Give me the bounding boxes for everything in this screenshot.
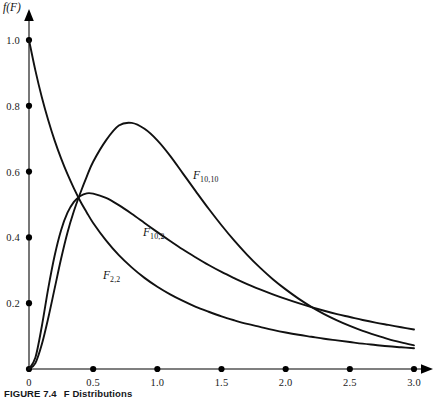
y-axis-title: f(F) (3, 1, 21, 13)
y-axis-tick-dot (26, 169, 32, 175)
y-axis-tick-label: 0.8 (0, 100, 20, 111)
x-axis-tick-dot (411, 366, 417, 372)
y-axis-tick-dot (26, 103, 32, 109)
x-axis-tick-dot (154, 366, 160, 372)
x-axis-tick-label: 2.5 (343, 377, 357, 388)
distribution-curves-group (29, 40, 414, 369)
density-curve-f-10-10 (29, 123, 414, 369)
f-10-10-label: F10,10 (193, 169, 219, 184)
figure-caption: FIGURE 7.4F Distributions (4, 388, 132, 399)
y-axis-tick-label: 0.4 (0, 232, 20, 243)
y-axis-tick-dot (26, 300, 32, 306)
y-axis-arrow-icon (24, 9, 34, 21)
curve-label-subscript: 2,2 (110, 275, 120, 284)
x-axis-tick-dot (218, 366, 224, 372)
figure-caption-text: F Distributions (64, 388, 133, 399)
figure-f-distributions: f(F) 00.51.01.52.02.53.0 0.20.40.60.81.0… (0, 0, 437, 401)
f-2-2-label: F2,2 (103, 269, 120, 284)
figure-caption-label: FIGURE 7.4 (4, 388, 57, 399)
curve-label-base: F (103, 269, 110, 281)
x-axis-tick-label: 2.0 (279, 377, 293, 388)
x-axis-arrow-icon (421, 364, 433, 374)
curve-label-subscript: 10,10 (200, 175, 219, 184)
y-axis-tick-label: 0.6 (0, 166, 20, 177)
y-axis-tick-label: 0.2 (0, 298, 20, 309)
x-axis-tick-label: 0 (26, 377, 31, 388)
x-axis-tick-label: 1.0 (150, 377, 164, 388)
y-axis-tick-dot (26, 234, 32, 240)
curve-label-subscript: 10,2 (150, 232, 164, 241)
x-axis-tick-dot (90, 366, 96, 372)
x-axis-tick-label: 1.5 (215, 377, 229, 388)
x-axis-tick-label: 0.5 (86, 377, 100, 388)
curve-label-base: F (193, 169, 200, 181)
curve-label-base: F (143, 226, 150, 238)
x-axis-tick-dot (347, 366, 353, 372)
y-axis-tick-label: 1.0 (0, 35, 20, 46)
chart-plot-area (0, 0, 437, 401)
x-axis-tick-dot (283, 366, 289, 372)
x-axis-tick-label: 3.0 (407, 377, 421, 388)
f-10-2-label: F10,2 (143, 226, 164, 241)
